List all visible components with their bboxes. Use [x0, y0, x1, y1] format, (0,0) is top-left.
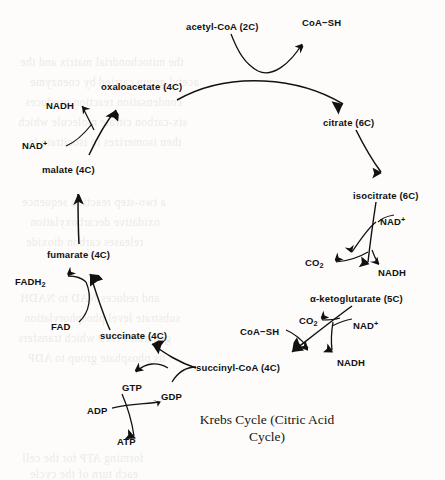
metabolite-text: NAD [22, 140, 43, 151]
arrow-oxaloacetate-to-citrate [177, 81, 343, 115]
metabolite-label-nadh-akg: NADH [337, 358, 365, 368]
metabolite-label-atp: ATP [117, 437, 136, 447]
metabolite-text: oxaloacetate (4C) [101, 81, 182, 92]
metabolite-text: isocitrate (6C) [353, 190, 419, 201]
metabolite-text: acetyl-CoA (2C) [186, 21, 259, 32]
metabolite-label-nadh-malate: NADH [46, 101, 74, 111]
metabolite-label-coa-sh-top: CoA−SH [302, 18, 341, 28]
metabolite-text: ATP [117, 436, 136, 447]
diagram-title-line-2: Cycle) [249, 429, 285, 444]
metabolite-text: fumarate (4C) [47, 249, 110, 260]
metabolite-text: ADP [87, 405, 108, 416]
metabolite-subscript: 2 [320, 261, 324, 270]
metabolite-label-adp: ADP [87, 406, 108, 416]
metabolite-superscript: + [43, 139, 47, 148]
metabolite-subscript: 2 [314, 319, 318, 328]
line-succinylcoa-to-gdp [172, 367, 196, 382]
metabolite-text: NAD [380, 216, 401, 227]
metabolite-text: CoA−SH [240, 326, 279, 337]
reaction-arrows: .ln { fill: none; stroke: #111111; } [0, 0, 445, 480]
metabolite-text: succinyl-CoA (4C) [196, 362, 280, 373]
metabolite-text: α-ketoglutarate (5C) [310, 293, 403, 304]
metabolite-label-gdp: GDP [161, 392, 182, 402]
metabolite-superscript: + [401, 215, 405, 224]
metabolite-label-co2-akg: CO2 [299, 316, 318, 327]
metabolite-text: NADH [337, 357, 365, 368]
arrow-to-nadh-malate [82, 106, 94, 130]
metabolite-text: FAD [51, 321, 70, 332]
arrow-isocitrate-to-alphaketoglutarate [345, 202, 376, 267]
metabolite-label-malate: malate (4C) [42, 165, 95, 175]
metabolite-label-alpha-ketoglutarate: α-ketoglutarate (5C) [310, 294, 403, 304]
arrow-to-co2-akg [321, 311, 340, 320]
metabolite-label-fad: FAD [51, 322, 70, 332]
metabolite-label-citrate: citrate (6C) [323, 118, 374, 128]
metabolite-subscript: 2 [41, 280, 45, 289]
arrow-gtp-to-atp [122, 394, 136, 439]
metabolite-label-nad-plus-isocit: NAD+ [380, 216, 405, 227]
metabolite-text: FADH [15, 276, 41, 287]
metabolite-label-coa-sh-succ: CoA−SH [240, 327, 279, 337]
diagram-title: Krebs Cycle (Citric Acid Cycle) [172, 412, 362, 446]
arrow-malate-to-oxaloacetate [89, 110, 119, 155]
line-nadplus-akg [332, 319, 352, 326]
metabolite-text: NADH [46, 100, 74, 111]
arrow-to-nadh-isocitrate [370, 250, 379, 265]
metabolite-text: GDP [161, 391, 182, 402]
metabolite-superscript: + [374, 319, 378, 328]
metabolite-label-oxaloacetate: oxaloacetate (4C) [101, 82, 182, 92]
metabolite-label-nad-plus-akg: NAD+ [353, 320, 378, 331]
metabolite-label-succinate: succinate (4C) [100, 331, 167, 341]
metabolite-text: NAD [353, 320, 374, 331]
metabolite-label-acetyl-coa: acetyl-CoA (2C) [186, 22, 259, 32]
metabolite-label-fadh2: FADH2 [15, 277, 46, 288]
metabolite-text: CO [305, 257, 320, 268]
metabolite-text: CO [299, 315, 314, 326]
metabolite-text: NADH [378, 267, 406, 278]
arrow-fumarate-to-malate [73, 194, 84, 244]
metabolite-text: GTP [122, 382, 142, 393]
metabolite-label-co2-isocit: CO2 [305, 258, 324, 269]
arrow-adp-to-gdp [112, 400, 162, 408]
arrow-succinate-to-fumarate [90, 274, 110, 330]
arrow-fad-to-fadh2 [67, 267, 89, 322]
metabolite-text: succinate (4C) [100, 330, 167, 341]
metabolite-label-isocitrate: isocitrate (6C) [353, 191, 419, 201]
metabolite-text: CoA−SH [302, 17, 341, 28]
metabolite-label-nad-plus-malate: NAD+ [22, 140, 47, 151]
arrow-alphaketoglutarate-to-succinylcoa [292, 306, 352, 352]
arrow-to-gtp [135, 363, 168, 372]
metabolite-text: malate (4C) [42, 164, 95, 175]
arrow-citrate-to-isocitrate [356, 130, 381, 178]
metabolite-label-fumarate: fumarate (4C) [47, 250, 110, 260]
metabolite-label-nadh-isocit: NADH [378, 268, 406, 278]
diagram-title-line-1: Krebs Cycle (Citric Acid [200, 412, 335, 427]
line-nadplus-malate [66, 124, 92, 146]
metabolite-text: citrate (6C) [323, 117, 374, 128]
metabolite-label-succinyl-coa: succinyl-CoA (4C) [196, 363, 280, 373]
krebs-cycle-diagram: the mitochondrial matrix and theacetyl g… [0, 0, 445, 480]
metabolite-label-gtp: GTP [122, 383, 142, 393]
arrow-acetylcoa-to-coash [231, 34, 303, 73]
